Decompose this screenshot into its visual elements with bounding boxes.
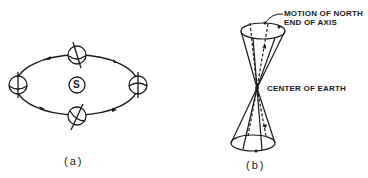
label-center-of-earth: CENTER OF EARTH xyxy=(267,84,346,93)
caption-b: (b) xyxy=(246,159,265,171)
earth-icon-bottom xyxy=(68,104,86,130)
sun-label: S xyxy=(73,79,80,90)
earth-icon-right xyxy=(129,72,147,98)
motion-leader-line xyxy=(265,14,283,23)
precession-cone-lower xyxy=(231,88,275,151)
earth-icon-left xyxy=(9,72,27,98)
earth-icon-top xyxy=(68,42,86,68)
precession-cone-upper xyxy=(241,23,285,88)
label-motion-line2: END OF AXIS xyxy=(284,18,337,27)
caption-a: (a) xyxy=(64,155,83,167)
center-of-earth-point xyxy=(255,86,259,90)
label-motion-line1: MOTION OF NORTH xyxy=(284,9,363,18)
